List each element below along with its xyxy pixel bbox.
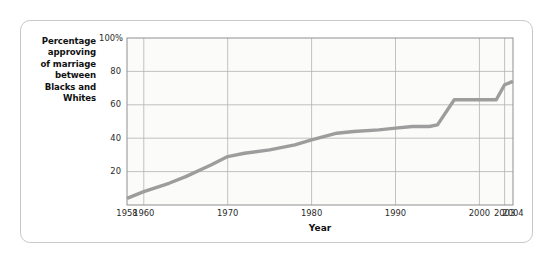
line-chart-plot: [0, 0, 549, 260]
y-tick-label: 100%: [93, 34, 123, 43]
figure-root: Percentage approving of marriage between…: [0, 0, 549, 260]
x-axis-title: Year: [127, 223, 513, 233]
x-tick-label: 1960: [124, 209, 164, 218]
plot-background: [127, 38, 513, 205]
x-tick-label: 1990: [376, 209, 416, 218]
x-tick-label: 2004: [493, 209, 533, 218]
x-tick-label: 1970: [208, 209, 248, 218]
x-tick-label: 1980: [292, 209, 332, 218]
y-tick-label: 20: [93, 167, 121, 176]
plot-area-background: [127, 38, 513, 205]
y-tick-label: 80: [93, 67, 121, 76]
y-tick-label: 40: [93, 134, 121, 143]
y-tick-label: 60: [93, 100, 121, 109]
